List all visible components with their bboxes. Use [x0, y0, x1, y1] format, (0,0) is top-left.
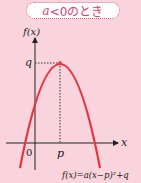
vertex-point — [58, 61, 62, 65]
vertex-y-label: q — [25, 56, 32, 69]
parabola-graph: f(x) x 0 p q f(x)=a(x−p)²+q — [0, 0, 141, 183]
x-axis-label: x — [121, 136, 128, 149]
formula-label: f(x)=a(x−p)²+q — [61, 170, 129, 180]
y-axis-label: f(x) — [22, 26, 40, 37]
vertex-x-label: p — [57, 147, 64, 160]
origin-label: 0 — [26, 147, 32, 158]
